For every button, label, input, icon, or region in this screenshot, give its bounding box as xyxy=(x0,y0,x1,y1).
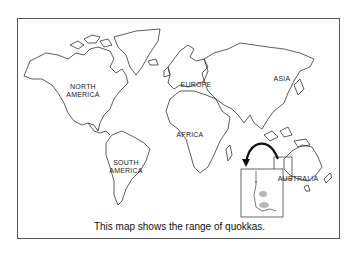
label-line: SOUTH xyxy=(106,159,146,167)
quokka-range-area-2 xyxy=(259,202,269,208)
asia-outline xyxy=(204,43,314,129)
arrow-head-icon xyxy=(242,159,250,167)
world-map xyxy=(18,19,341,240)
label-south-america: SOUTH AMERICA xyxy=(106,159,146,175)
label-australia: AUSTRALIA xyxy=(276,175,320,183)
map-frame: NORTH AMERICA SOUTH AMERICA EUROPE AFRIC… xyxy=(17,18,340,239)
greenland-outline xyxy=(114,29,160,75)
label-africa: AFRICA xyxy=(170,131,210,139)
quokka-range-area-1 xyxy=(259,191,267,197)
label-north-america: NORTH AMERICA xyxy=(63,83,103,99)
label-line: NORTH xyxy=(63,83,103,91)
label-line: AMERICA xyxy=(106,167,146,175)
inset-arrow xyxy=(246,144,278,163)
map-caption: This map shows the range of quokkas. xyxy=(18,221,341,232)
label-europe: EUROPE xyxy=(176,81,216,89)
label-line: AMERICA xyxy=(63,91,103,99)
label-asia: ASIA xyxy=(262,75,302,83)
